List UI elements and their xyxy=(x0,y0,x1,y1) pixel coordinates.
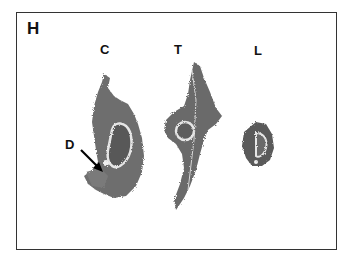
lumbar-section xyxy=(242,122,274,166)
specimen-sections xyxy=(0,0,355,262)
thoracic-section xyxy=(164,62,222,210)
cervical-section xyxy=(84,74,144,198)
